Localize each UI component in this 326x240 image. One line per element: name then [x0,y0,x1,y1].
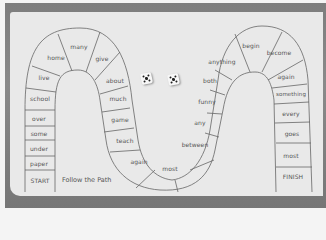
space-8[interactable]: home [47,54,64,61]
die-pip [174,75,177,78]
space-11[interactable]: about [106,77,124,84]
die-left[interactable] [140,72,153,85]
die-pip [148,79,151,82]
space-13[interactable]: game [111,116,128,123]
space-26[interactable]: every [282,110,299,117]
space-14[interactable]: teach [116,137,133,144]
space-6[interactable]: school [30,95,50,102]
die-pip [143,80,146,83]
space-12[interactable]: much [109,95,126,102]
space-10[interactable]: give [95,55,108,62]
die-pip [147,74,150,77]
space-start[interactable]: START [30,177,49,184]
die-right[interactable] [167,73,180,86]
space-20[interactable]: both [203,77,217,84]
space-finish[interactable]: FINISH [283,173,303,180]
board-title: Follow the Path [62,176,111,184]
die-pip [170,81,173,84]
space-24[interactable]: again [277,73,294,80]
space-2[interactable]: paper [30,160,48,167]
space-25[interactable]: something [276,91,306,97]
space-4[interactable]: some [31,130,48,137]
space-21[interactable]: anything [208,58,235,65]
space-9[interactable]: many [70,43,87,50]
die-pip [175,80,178,83]
space-28[interactable]: most [283,152,298,159]
space-7[interactable]: live [39,74,50,81]
space-27[interactable]: goes [285,130,300,137]
space-18[interactable]: any [194,119,205,126]
space-17[interactable]: between [182,141,209,148]
space-3[interactable]: under [30,145,48,152]
space-15[interactable]: again [130,158,147,165]
space-16[interactable]: most [162,165,177,172]
space-5[interactable]: over [32,115,46,122]
space-22[interactable]: begin [242,42,259,49]
space-23[interactable]: become [267,49,292,56]
space-19[interactable]: funny [198,98,216,105]
